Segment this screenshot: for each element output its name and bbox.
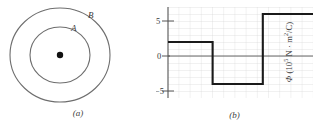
y-axis-label: Φ (105 N · m2/C) [284,22,294,83]
units-exponent-5: 5 [282,59,289,62]
y-tick-label-0: 0 [157,51,161,61]
y-tick-label-5: 5 [156,16,160,26]
panel-a-caption: (a) [0,108,156,118]
inner-circle-label-A: A [70,23,77,33]
panel-a-drawing: B A [0,0,156,124]
units-prefix: (10 [284,62,294,76]
units-exponent-2: 2 [282,33,289,36]
figure-container: B A (a) 5 0 −5 [0,0,313,124]
panel-b-caption: (b) [156,110,313,120]
y-tick-label-minus-5: −5 [156,86,164,96]
units-end: /C) [284,22,294,33]
y-axis-label-wrapper: Φ (105 N · m2/C) [282,4,296,100]
units-suffix: N · m [284,36,294,59]
phi-symbol: Φ [284,76,294,83]
panel-a-concentric-circles: B A (a) [0,0,156,124]
point-charge-marker [57,52,63,58]
panel-b-flux-chart: 5 0 −5 Φ (105 N · m2/C) (b) [156,0,313,124]
outer-circle-label-B: B [88,10,94,20]
